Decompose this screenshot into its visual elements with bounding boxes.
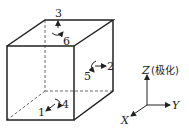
front-face-markers: 1 4 <box>38 98 69 119</box>
label-2: 2 <box>107 60 114 73</box>
label-4: 4 <box>62 98 69 111</box>
cube-diagram: 3 6 2 5 1 4 Z (极化) Y X <box>0 0 189 133</box>
axis-z-note: (极化) <box>151 64 179 76</box>
label-1: 1 <box>38 106 45 119</box>
axis-y-label: Y <box>172 99 181 112</box>
axis-z-label: Z <box>141 64 150 77</box>
label-6: 6 <box>63 35 70 48</box>
side-face-markers: 2 5 <box>84 60 114 83</box>
top-face-markers: 3 6 <box>52 7 70 48</box>
rotation-6-icon <box>52 32 63 35</box>
label-3: 3 <box>55 7 62 20</box>
rotation-4-icon <box>55 99 60 108</box>
coordinate-axes: Z (极化) Y X <box>120 64 181 127</box>
label-5: 5 <box>84 70 91 83</box>
axis-x-label: X <box>120 114 130 127</box>
